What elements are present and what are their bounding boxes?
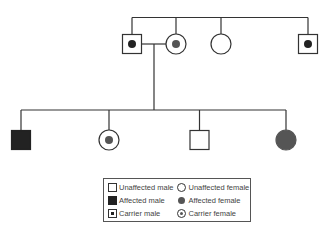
mother-carrier-female [166, 34, 186, 54]
legend-unaffected-female: Unaffected female [177, 181, 249, 194]
unaffected-male-icon [108, 183, 117, 192]
carrier-male-icon [108, 209, 117, 218]
legend-label: Affected female [188, 196, 240, 205]
father-carrier-male [123, 35, 142, 54]
legend-label: Carrier female [188, 209, 236, 218]
legend: Unaffected male Unaffected female Affect… [103, 178, 251, 222]
brother-carrier-male [299, 35, 318, 54]
legend-label: Carrier male [119, 209, 160, 218]
connector-lines [21, 18, 308, 131]
legend-unaffected-male: Unaffected male [108, 181, 173, 194]
affected-male-icon [108, 196, 117, 205]
affected-female-icon [177, 196, 186, 205]
legend-affected-female: Affected female [177, 194, 249, 207]
legend-label: Unaffected male [119, 183, 173, 192]
legend-carrier-male: Carrier male [108, 207, 173, 220]
child-unaffected-male [190, 131, 209, 150]
legend-label: Unaffected female [188, 183, 249, 192]
unaffected-female-icon [177, 183, 186, 192]
child-affected-male [12, 131, 31, 150]
legend-label: Affected male [119, 196, 165, 205]
carrier-female-icon [177, 209, 186, 218]
child-carrier-female [99, 130, 119, 150]
sister-unaffected-female [211, 34, 231, 54]
child-affected-female [276, 130, 296, 150]
legend-carrier-female: Carrier female [177, 207, 249, 220]
legend-affected-male: Affected male [108, 194, 173, 207]
